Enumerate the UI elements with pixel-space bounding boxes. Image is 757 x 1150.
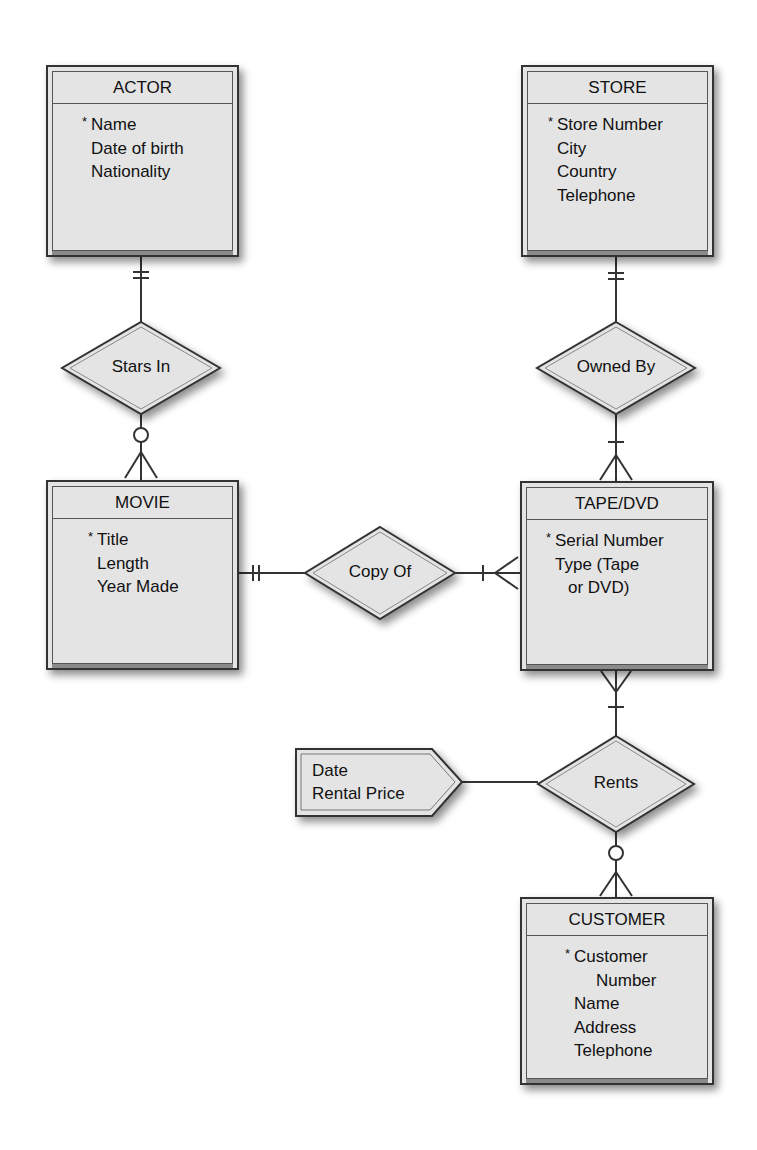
entity-actor-title: ACTOR (53, 72, 232, 104)
copy-of-label: Copy Of (330, 562, 430, 582)
entity-tape-dvd-title: TAPE/DVD (527, 488, 707, 520)
movie-copy-of-connector (238, 565, 305, 581)
rents-label: Rents (566, 773, 666, 793)
tape-attr-type-continued: or DVD) (522, 576, 712, 600)
movie-attr-length: Length (48, 552, 237, 576)
store-attr-country: Country (523, 160, 712, 184)
entity-customer-attributes: * Customer Number Name Address Telephone (522, 945, 712, 1063)
entity-store-attributes: * Store Number City Country Telephone (523, 113, 712, 207)
owned-by-tape-connector (600, 414, 632, 481)
customer-attr-telephone: Telephone (522, 1039, 712, 1063)
entity-tape-dvd[interactable]: TAPE/DVD * Serial Number Type (Tape or D… (520, 481, 714, 671)
store-attr-telephone: Telephone (523, 184, 712, 208)
entity-tape-dvd-attributes: * Serial Number Type (Tape or DVD) (522, 529, 712, 600)
stars-in-label: Stars In (91, 357, 191, 377)
entity-store-title: STORE (528, 72, 707, 104)
customer-attr-name: Name (522, 992, 712, 1016)
primary-key-marker: * (546, 526, 551, 550)
store-attr-store-number: * Store Number (523, 113, 712, 137)
customer-attr-customer-number: * Customer (522, 945, 712, 969)
stars-in-movie-connector (125, 414, 157, 480)
rents-customer-connector (600, 832, 632, 897)
customer-attr-customer-number-continued: Number (522, 969, 712, 993)
copy-of-tape-connector (455, 557, 520, 589)
actor-attr-date-of-birth: Date of birth (48, 137, 237, 161)
owned-by-label: Owned By (566, 357, 666, 377)
store-attr-city: City (523, 137, 712, 161)
movie-attr-title: * Title (48, 528, 237, 552)
primary-key-marker: * (88, 525, 93, 549)
entity-customer-title: CUSTOMER (527, 904, 707, 936)
entity-movie-attributes: * Title Length Year Made (48, 528, 237, 599)
actor-attr-nationality: Nationality (48, 160, 237, 184)
tape-attr-type: Type (Tape (522, 553, 712, 577)
entity-customer[interactable]: CUSTOMER * Customer Number Name Address … (520, 897, 714, 1085)
entity-movie-title: MOVIE (53, 487, 232, 519)
entity-movie[interactable]: MOVIE * Title Length Year Made (46, 480, 239, 670)
rents-attribute-list: Date Rental Price (312, 759, 405, 805)
entity-actor[interactable]: ACTOR * Name Date of birth Nationality (46, 65, 239, 257)
actor-stars-in-connector (133, 257, 149, 322)
customer-attr-address: Address (522, 1016, 712, 1040)
primary-key-marker: * (548, 110, 553, 134)
actor-attr-name: * Name (48, 113, 237, 137)
primary-key-marker: * (82, 110, 87, 134)
tape-rents-connector (601, 670, 631, 736)
primary-key-marker: * (565, 942, 570, 966)
entity-store[interactable]: STORE * Store Number City Country Teleph… (521, 65, 714, 257)
rents-attribute-date: Date (312, 759, 405, 782)
tape-attr-serial-number: * Serial Number (522, 529, 712, 553)
rents-attribute-rental-price: Rental Price (312, 782, 405, 805)
entity-actor-attributes: * Name Date of birth Nationality (48, 113, 237, 184)
store-owned-by-connector (608, 257, 624, 322)
movie-attr-year-made: Year Made (48, 575, 237, 599)
